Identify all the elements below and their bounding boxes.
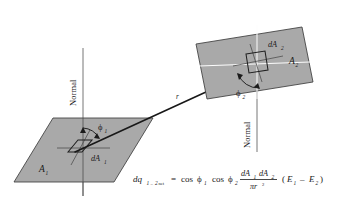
phi2-label-subscript: 2 [243, 94, 246, 100]
eq-cos-2: cos [212, 174, 224, 184]
eq-E2-subscript: 2 [316, 180, 319, 186]
normal-label-1: Normal [69, 79, 78, 106]
eq-numerator-da1: dA [241, 169, 251, 178]
da2-label-subscript: 2 [281, 45, 284, 51]
area-label-2: A [288, 56, 295, 66]
eq-cos-2-phi: ϕ [228, 174, 233, 184]
eq-cos-2-subscript: 2 [235, 180, 238, 186]
eq-equals: = [171, 174, 176, 184]
da1-label-subscript: 1 [104, 159, 107, 165]
normal-label-2: Normal [243, 121, 252, 148]
surface-a2-group [196, 25, 313, 152]
eq-numerator-da2-subscript: 2 [272, 174, 275, 180]
radiation-exchange-figure: Normal Normal A 1 A 2 dA 1 dA 2 ϕ 1 ϕ 2 … [0, 0, 343, 208]
eq-E1: E [286, 174, 293, 184]
figure-canvas: Normal Normal A 1 A 2 dA 1 dA 2 ϕ 1 ϕ 2 … [0, 0, 343, 208]
da1-label: dA [91, 154, 101, 163]
area-label-1: A [38, 164, 45, 174]
eq-numerator-da2: dA [259, 169, 269, 178]
eq-lhs-sub-net: net [159, 181, 165, 186]
equation-group: dq 1 – 2 net = cos ϕ 1 cos ϕ 2 dA 1 dA 2… [133, 169, 323, 191]
distance-label-r: r [176, 93, 179, 101]
eq-minus: – [299, 174, 305, 184]
eq-lhs-sub-1: 1 [147, 180, 150, 186]
phi1-label-subscript: 1 [105, 128, 108, 134]
da2-label: dA [268, 40, 278, 49]
eq-E2: E [308, 174, 315, 184]
phi2-label: ϕ [236, 88, 241, 98]
eq-E1-subscript: 1 [294, 180, 297, 186]
phi1-label: ϕ [98, 122, 103, 132]
area-label-2-subscript: 2 [296, 62, 299, 68]
eq-paren-close: ) [320, 174, 323, 184]
eq-cos-1-subscript: 1 [204, 180, 207, 186]
eq-paren-open: ( [282, 174, 285, 184]
eq-denominator: πr [250, 182, 258, 191]
eq-numerator-da1-subscript: 1 [254, 174, 257, 180]
eq-cos-1-phi: ϕ [197, 174, 202, 184]
eq-cos-1: cos [181, 174, 193, 184]
eq-denominator-exponent: 2 [262, 182, 265, 187]
eq-lhs-dash: – [150, 181, 154, 186]
area-label-1-subscript: 1 [46, 170, 49, 176]
eq-lhs-dq: dq [133, 174, 143, 184]
